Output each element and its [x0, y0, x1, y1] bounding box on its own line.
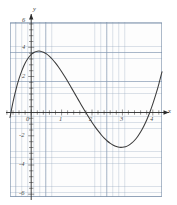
- x-tick-label-0: 0: [26, 116, 29, 123]
- x-axis: [6, 110, 169, 114]
- y-tick-label-4: 4: [22, 44, 25, 51]
- y-tick-label-neg4: -4: [19, 161, 24, 168]
- x-tick-label-1: 1: [59, 116, 62, 123]
- y-axis: [29, 14, 33, 200]
- curve-path: [10, 51, 162, 147]
- x-tick-label-3: 3: [120, 116, 123, 123]
- x-tick-label-2: 2: [89, 116, 92, 123]
- y-tick-label-neg6: -6: [19, 190, 24, 197]
- y-tick-label-6: 6: [22, 17, 25, 24]
- y-tick-label-neg2: -2: [19, 132, 24, 139]
- y-axis-arrow-icon: [29, 14, 33, 20]
- y-tick-label-2: 2: [22, 73, 25, 80]
- plot-surface: [0, 0, 177, 205]
- x-axis-label: x: [168, 108, 171, 115]
- y-axis-label: y: [33, 6, 36, 13]
- x-tick-label-4: 4: [150, 116, 153, 123]
- cubic-function-graph: 6 4 2 -2 -4 -6 0 1 2 3 4 x y: [0, 0, 177, 205]
